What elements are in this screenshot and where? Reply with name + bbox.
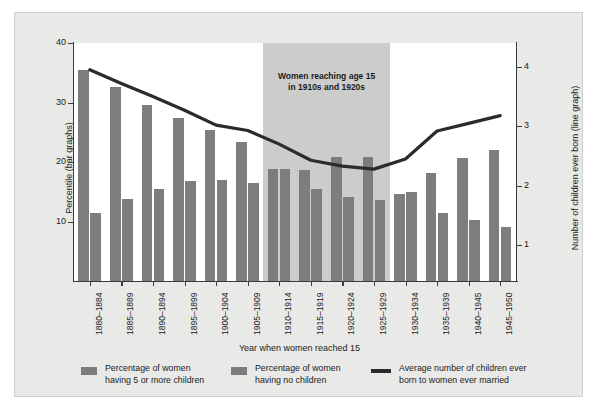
y-axis-right-title: Number of children ever born (line graph… [570, 63, 580, 273]
legend-label-line2: having no children [255, 375, 326, 385]
legend-label-line1: Percentage of women [105, 363, 191, 373]
y-axis-right-tick [517, 245, 522, 246]
x-axis-tick-label: 1945–1950 [504, 292, 514, 335]
x-axis-tick-label: 1915–1919 [315, 292, 325, 335]
x-axis-line [73, 281, 518, 282]
y-axis-right-tick-label: 2 [524, 180, 550, 190]
x-axis-tick [437, 282, 438, 286]
chart-figure: Percentile (bar graphs) Number of childr… [14, 12, 583, 397]
x-axis-tick [248, 282, 249, 286]
x-axis-tick-label: 1920–1924 [346, 292, 356, 335]
x-axis-tick-label: 1880–1884 [94, 292, 104, 335]
y-axis-right-tick [517, 186, 522, 187]
band-annotation-line2: in 1910s and 1920s [288, 82, 365, 92]
x-axis-tick-label: 1935–1939 [441, 292, 451, 335]
x-axis-tick-label: 1910–1914 [283, 292, 293, 335]
legend-swatch-icon [81, 367, 97, 375]
legend-label-line1: Average number of children ever [399, 363, 526, 373]
y-axis-right-tick [517, 126, 522, 127]
x-axis-tick-label: 1890–1894 [157, 292, 167, 335]
x-axis-tick [90, 282, 91, 286]
y-axis-right-tick-label: 4 [524, 61, 550, 71]
x-axis-tick-label: 1940–1945 [473, 292, 483, 335]
legend-label-line2: having 5 or more children [105, 375, 204, 385]
chart-legend: Percentage of women having 5 or more chi… [15, 365, 584, 399]
x-axis-tick-label: 1930–1934 [410, 292, 420, 335]
x-axis-tick [342, 282, 343, 286]
x-axis-tick-label: 1905–1909 [252, 292, 262, 335]
y-axis-right-tick-label: 1 [524, 239, 550, 249]
x-axis-tick [500, 282, 501, 286]
x-axis-tick [406, 282, 407, 286]
x-axis-tick-label: 1925–1929 [378, 292, 388, 335]
x-axis-tick [374, 282, 375, 286]
y-axis-left-tick [68, 222, 73, 223]
band-annotation: Women reaching age 15 in 1910s and 1920s [263, 71, 389, 93]
legend-swatch-icon [231, 367, 247, 375]
x-axis-tick [216, 282, 217, 286]
y-axis-right-tick [517, 67, 522, 68]
x-axis-tick-label: 1895–1899 [189, 292, 199, 335]
x-axis-tick-label: 1900–1904 [220, 292, 230, 335]
x-axis-tick-label: 1885–1889 [125, 292, 135, 335]
x-axis-title: Year when women reached 15 [15, 343, 584, 353]
legend-item-label: Percentage of women having no children [255, 363, 341, 386]
y-axis-left-tick-label: 40 [40, 37, 66, 47]
x-axis-tick [185, 282, 186, 286]
x-axis-tick [121, 282, 122, 286]
y-axis-right-tick-label: 3 [524, 120, 550, 130]
legend-label-line2: born to women ever married [399, 375, 509, 385]
legend-item-label: Percentage of women having 5 or more chi… [105, 363, 204, 386]
y-axis-left-tick-label: 10 [40, 216, 66, 226]
y-axis-left-tick-label: 20 [40, 156, 66, 166]
plot-area: Women reaching age 15 in 1910s and 1920s [74, 43, 516, 281]
band-annotation-line1: Women reaching age 15 [278, 71, 375, 81]
y-axis-left-tick [68, 162, 73, 163]
legend-item-label: Average number of children ever born to … [399, 363, 526, 386]
y-axis-left-tick [68, 103, 73, 104]
y-axis-left-tick-label: 30 [40, 97, 66, 107]
legend-line-icon [371, 369, 391, 373]
x-axis-tick [469, 282, 470, 286]
y-axis-left-tick [68, 43, 73, 44]
x-axis-tick [279, 282, 280, 286]
x-axis-tick [153, 282, 154, 286]
x-axis-tick [311, 282, 312, 286]
legend-label-line1: Percentage of women [255, 363, 341, 373]
